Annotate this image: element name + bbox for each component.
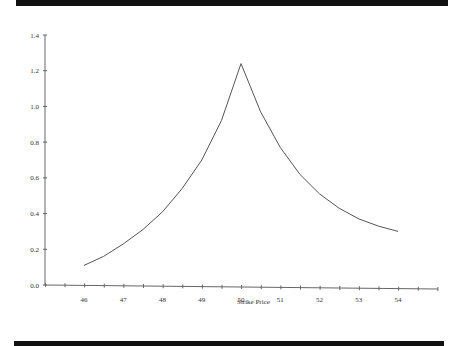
y-tick-label: 0.2 (30, 246, 39, 254)
x-tick-label: 47 (120, 296, 128, 304)
x-tick-label: 49 (198, 296, 206, 304)
tick-labels: 0.00.20.40.60.81.01.21.44647484950515253… (30, 32, 402, 305)
x-tick-label: 53 (355, 296, 363, 304)
x-axis-label: Strike Price (237, 298, 270, 306)
x-tick-label: 51 (277, 296, 285, 304)
y-tick-label: 1.0 (30, 103, 39, 111)
y-tick-label: 0.4 (30, 210, 39, 218)
data-series-line (84, 64, 398, 266)
y-tick-label: 0.8 (30, 139, 39, 147)
x-tick-label: 46 (81, 296, 89, 304)
y-tick-label: 0.6 (30, 174, 39, 182)
x-tick-label: 48 (159, 296, 167, 304)
x-tick-label: 52 (316, 296, 324, 304)
axes (43, 35, 438, 291)
y-tick-label: 0.0 (30, 282, 39, 290)
bottom-border-bar (14, 341, 444, 346)
x-tick-label: 54 (395, 296, 403, 304)
y-tick-label: 1.2 (30, 67, 39, 75)
y-tick-label: 1.4 (30, 32, 39, 40)
